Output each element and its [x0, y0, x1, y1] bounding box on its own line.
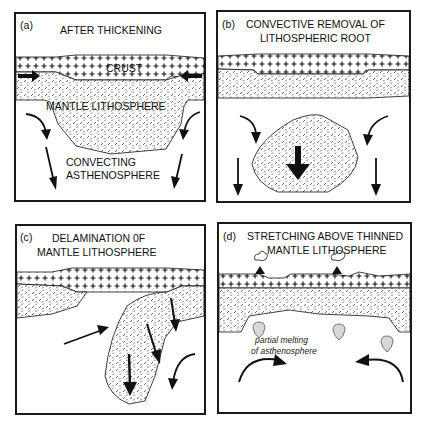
detached-root-blob — [252, 115, 358, 192]
label-partial-melting: partial melting — [255, 335, 308, 345]
panel-tag-a: (a) — [20, 19, 33, 31]
label-crust: CRUST — [106, 63, 142, 74]
label-asthenosphere: ASTHENOSPHERE — [66, 170, 160, 181]
thinned-crust-layer — [219, 272, 410, 288]
thinned-mantle-lithosphere — [219, 288, 410, 332]
label-of-asthenosphere: of asthenosphere — [251, 346, 317, 356]
melt-droplet-icon-2 — [333, 324, 345, 340]
panel-a-after-thickening: (a) AFTER THICKENING CRUST MANTLE LITHOS… — [14, 12, 206, 202]
panel-b-title-line2: LITHOSPHERIC ROOT — [260, 32, 371, 45]
panel-tag-d: (d) — [223, 230, 236, 242]
panel-b-title-line1: CONVECTIVE REMOVAL OF — [246, 18, 385, 31]
melt-droplet-icon-3 — [381, 336, 393, 352]
volcano-icon-2 — [332, 266, 342, 274]
upwelling-arrow-right — [365, 359, 403, 382]
panel-b-convective-removal: (b) CONVECTIVE REMOVAL OF LITHOSPHERIC R… — [216, 10, 411, 203]
mantle-lithosphere-root — [16, 72, 204, 154]
volcano-icon-1 — [255, 266, 265, 274]
panel-d-title-line1: STRETCHING ABOVE THINNED — [247, 230, 403, 243]
downflow-arrow-right — [176, 154, 182, 180]
convection-arrow-curved-right — [368, 116, 388, 138]
asthenosphere-inflow-arrow — [64, 330, 102, 344]
panel-c-title-line1: DELAMINATION 0F — [52, 232, 145, 245]
panel-c-title-line2: MANTLE LITHOSPHERE — [37, 246, 157, 259]
downflow-arrow-left — [46, 147, 54, 182]
label-mantle-lithosphere: MANTLE LITHOSPHERE — [46, 101, 166, 112]
panel-c-delamination: (c) DELAMINATION 0F MANTLE LITHOSPHERE — [15, 224, 206, 415]
convection-arrow-curved-right — [173, 354, 195, 382]
slab-arrow-3 — [129, 354, 130, 386]
upwelling-arrow-left — [239, 359, 279, 382]
panel-tag-b: (b) — [222, 18, 235, 30]
eruption-cloud-icon-1 — [255, 251, 268, 261]
label-convecting: CONVECTING — [66, 157, 136, 168]
panel-a-title: AFTER THICKENING — [60, 24, 162, 37]
panel-d-title-line2: MANTLE LITHOSPHERE — [267, 244, 387, 257]
panel-d-stretching: (d) STRETCHING ABOVE THINNED MANTLE LITH… — [217, 222, 412, 414]
panel-tag-c: (c) — [20, 231, 33, 243]
